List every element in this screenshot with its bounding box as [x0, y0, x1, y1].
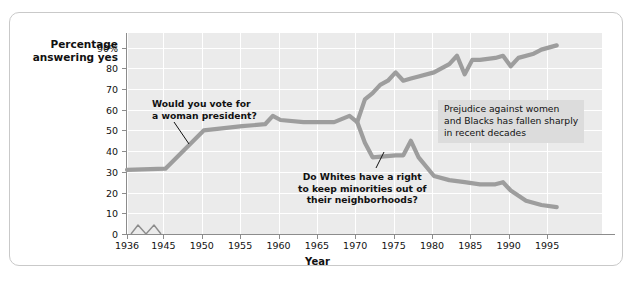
x-axis-break-symbol	[131, 225, 161, 234]
figure-container: Percentage answering yes	[0, 0, 635, 281]
annotation-whites-neighborhoods: Do Whites have a right to keep minoritie…	[298, 171, 426, 206]
leader-line-women	[174, 122, 189, 144]
x-axis-title: Year	[0, 256, 635, 267]
annotation-line: to keep minorities out of	[298, 183, 426, 195]
annotation-line: Do Whites have a right	[298, 171, 426, 183]
annotation-prejudice-summary: Prejudice against women and Blacks has f…	[438, 100, 584, 143]
annotation-line: in recent decades	[444, 127, 578, 139]
annotation-line: Would you vote for	[152, 98, 257, 110]
annotation-women-president: Would you vote for a woman president?	[152, 98, 257, 121]
annotation-line: and Blacks has fallen sharply	[444, 115, 578, 127]
annotation-line: a woman president?	[152, 110, 257, 122]
annotation-line: Prejudice against women	[444, 103, 578, 115]
annotation-line: their neighborhoods?	[298, 194, 426, 206]
leader-line-whites	[376, 152, 384, 168]
